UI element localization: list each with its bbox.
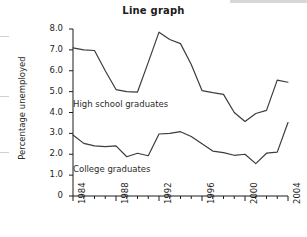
y-tick-label: 2.0 <box>37 148 63 158</box>
line-chart-figure: Line graph Percentage unemployed 8.07.06… <box>0 0 307 237</box>
y-tick-label: 4.0 <box>37 107 63 117</box>
y-tick-label: 0 <box>37 190 63 200</box>
y-tick-label: 7.0 <box>37 44 63 54</box>
series-line-college-graduates <box>73 123 288 164</box>
y-tick-label: 1.0 <box>37 169 63 179</box>
x-tick-label: 2000 <box>249 182 259 204</box>
data-series-lines <box>73 32 288 164</box>
x-tick-label: 2004 <box>292 182 302 204</box>
y-tick-label: 8.0 <box>37 23 63 33</box>
y-tick-label: 6.0 <box>37 65 63 75</box>
x-tick-label: 1996 <box>206 182 216 204</box>
x-tick-label: 1984 <box>77 182 87 204</box>
x-tick-label: 1992 <box>163 182 173 204</box>
y-tick-label: 3.0 <box>37 127 63 137</box>
y-tick-label: 5.0 <box>37 86 63 96</box>
series-label-high-school-graduates: High school graduates <box>73 99 168 109</box>
x-tick-label: 1988 <box>120 182 130 204</box>
series-label-college-graduates: College graduates <box>73 164 151 174</box>
plot-area <box>0 0 307 237</box>
